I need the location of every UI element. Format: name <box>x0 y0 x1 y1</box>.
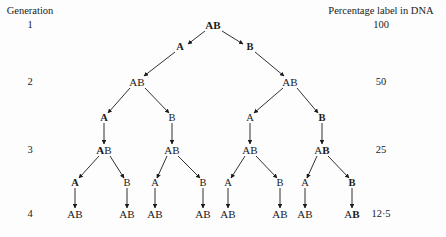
generation-number: 2 <box>27 75 32 88</box>
duplex-node: AB <box>147 209 163 220</box>
arrow-group <box>75 31 352 208</box>
replication-arrow <box>297 88 318 113</box>
single-strand-letter-b: B <box>348 178 355 189</box>
strand-letter-a: A <box>272 208 280 220</box>
percentage-value: 12·5 <box>371 209 390 220</box>
single-strand-letter-b: B <box>199 178 206 189</box>
replication-arrow <box>254 88 283 113</box>
strand-letter-a: A <box>297 208 305 220</box>
strand-letter-a: A <box>164 144 172 156</box>
replication-arrow <box>307 156 317 178</box>
duplex-node: AB <box>119 209 135 220</box>
strand-letter-a: A <box>242 144 250 156</box>
percentage-heading-label: Percentage label in DNA <box>328 5 433 16</box>
strand-letter-a: A <box>129 76 137 88</box>
strand-letter-b: B <box>280 208 288 220</box>
strand-letter-b: B <box>305 208 313 220</box>
single-strand-letter-b: B <box>168 113 175 124</box>
replication-diagram-figure: Generation Percentage label in DNA 1234 … <box>0 0 446 237</box>
duplex-node: AB <box>297 209 313 220</box>
replication-arrow <box>110 156 124 178</box>
replication-arrow <box>79 156 99 178</box>
strand-letter-a: A <box>344 208 352 220</box>
duplex-node: AB <box>220 209 236 220</box>
generation-column-heading: Generation <box>7 4 54 17</box>
duplex-node: AB <box>195 209 211 220</box>
duplex-node: AB <box>67 209 83 220</box>
replication-arrow <box>222 31 243 44</box>
strand-letter-a: A <box>282 76 290 88</box>
strand-letter-b: B <box>322 144 330 156</box>
duplex-node: AB <box>205 20 221 31</box>
duplex-node: AB <box>344 209 360 220</box>
replication-arrow <box>178 156 200 178</box>
replication-arrow <box>157 156 167 178</box>
generation-heading-label: Generation <box>7 5 54 16</box>
strand-letter-a: A <box>147 208 155 220</box>
replication-arrow <box>256 156 277 178</box>
duplex-node: AB <box>314 145 330 156</box>
strand-letter-b: B <box>250 144 258 156</box>
arrow-edges-layer <box>0 0 446 237</box>
strand-letter-a: A <box>96 144 104 156</box>
single-strand-letter-b: B <box>246 42 253 53</box>
strand-letter-b: B <box>104 144 112 156</box>
duplex-node: AB <box>164 145 180 156</box>
strand-letter-a: A <box>195 208 203 220</box>
single-strand-letter-a: A <box>151 178 159 189</box>
generation-number: 3 <box>27 143 32 156</box>
single-strand-letter-a: A <box>224 178 232 189</box>
percentage-column-heading: Percentage label in DNA <box>328 6 433 17</box>
duplex-node: AB <box>272 209 288 220</box>
percentage-value: 100 <box>373 20 389 31</box>
generation-number: 4 <box>27 207 32 220</box>
replication-arrow <box>231 156 245 178</box>
percentage-value: 50 <box>376 77 387 88</box>
replication-arrow <box>188 31 205 44</box>
single-strand-letter-b: B <box>276 178 283 189</box>
single-strand-letter-a: A <box>100 113 108 124</box>
strand-letter-b: B <box>127 208 135 220</box>
duplex-node: AB <box>96 145 112 156</box>
single-strand-letter-a: A <box>71 178 79 189</box>
replication-arrow <box>144 52 175 76</box>
strand-letter-b: B <box>213 19 221 31</box>
strand-letter-a: A <box>119 208 127 220</box>
strand-letter-b: B <box>137 76 145 88</box>
single-strand-letter-b: B <box>318 113 325 124</box>
duplex-node: AB <box>242 145 258 156</box>
generation-number: 1 <box>27 18 32 31</box>
strand-letter-b: B <box>203 208 211 220</box>
strand-letter-a: A <box>220 208 228 220</box>
duplex-node: AB <box>129 77 145 88</box>
strand-letter-b: B <box>75 208 83 220</box>
strand-letter-b: B <box>352 208 360 220</box>
single-strand-letter-a: A <box>246 113 254 124</box>
replication-arrow <box>328 156 349 178</box>
strand-letter-b: B <box>290 76 298 88</box>
strand-letter-a: A <box>205 19 213 31</box>
strand-letter-b: B <box>228 208 236 220</box>
strand-letter-b: B <box>155 208 163 220</box>
strand-letter-a: A <box>67 208 75 220</box>
replication-arrow <box>255 52 284 76</box>
percentage-value: 25 <box>376 145 387 156</box>
replication-arrow <box>108 88 130 113</box>
strand-letter-a: A <box>314 144 322 156</box>
strand-letter-b: B <box>172 144 180 156</box>
single-strand-letter-a: A <box>176 42 184 53</box>
single-strand-letter-a: A <box>301 178 309 189</box>
replication-arrow <box>145 88 169 113</box>
single-strand-letter-b: B <box>123 178 130 189</box>
duplex-node: AB <box>282 77 298 88</box>
